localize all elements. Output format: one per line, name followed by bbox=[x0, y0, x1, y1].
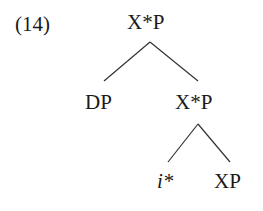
branch-root-to-xstarp bbox=[150, 42, 198, 81]
node-xstarp: X*P bbox=[175, 92, 212, 113]
branch-root-to-dp bbox=[104, 42, 150, 81]
example-number: (14) bbox=[15, 14, 50, 35]
node-dp: DP bbox=[85, 92, 112, 113]
node-istar: i* bbox=[157, 171, 173, 192]
node-xp: XP bbox=[214, 171, 241, 192]
node-root: X*P bbox=[127, 12, 164, 33]
branch-xstarp-to-xp bbox=[198, 124, 230, 162]
branch-xstarp-to-istar bbox=[168, 124, 198, 162]
